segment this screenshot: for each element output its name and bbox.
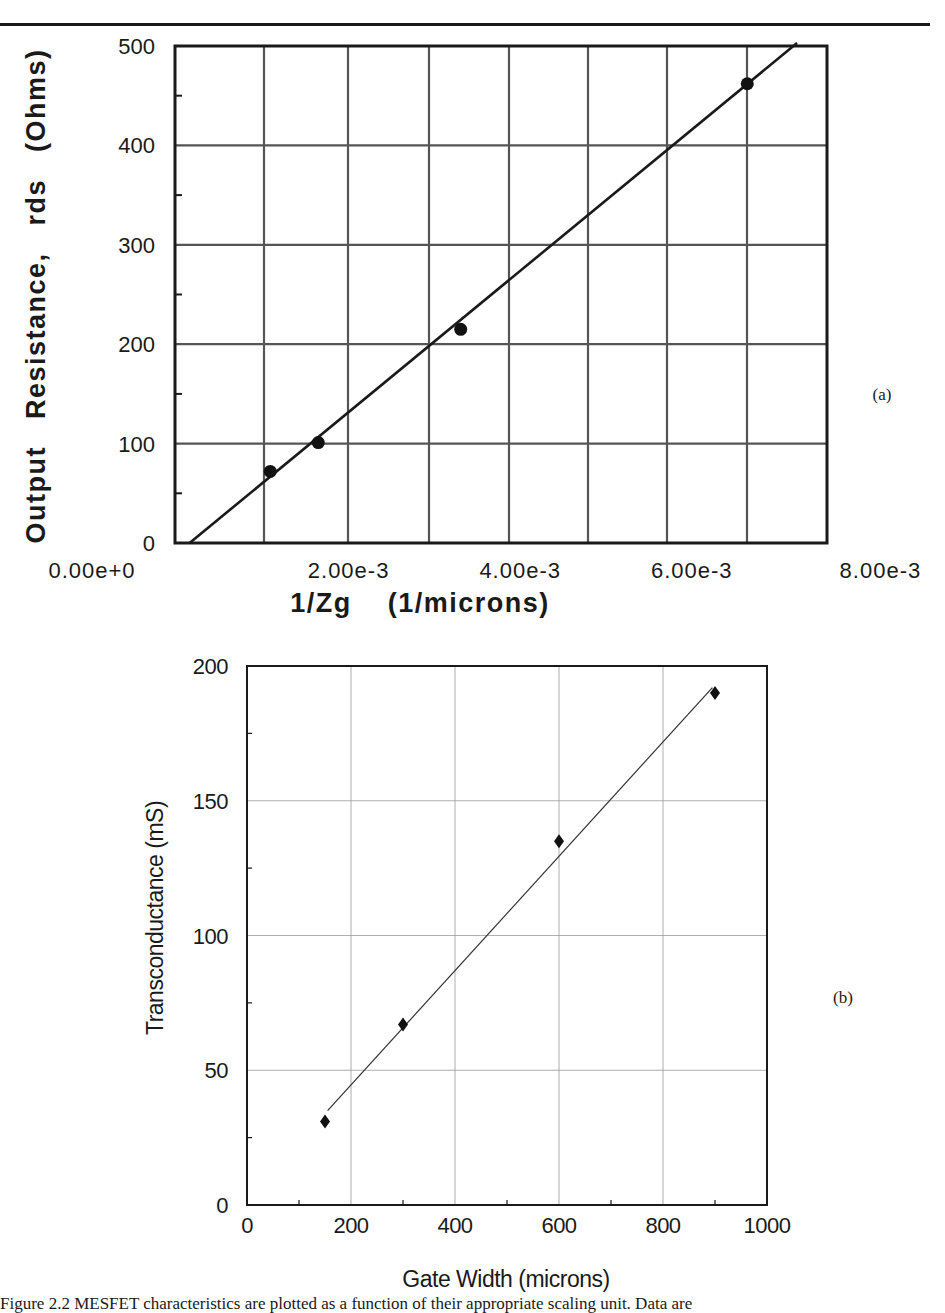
chart-a-x-tick-label: 0.00e+0 bbox=[48, 558, 135, 583]
chart-b-panel-label: (b) bbox=[833, 988, 853, 1007]
chart-a-x-tick-label: 6.00e-3 bbox=[651, 558, 733, 583]
chart-b-minor-ticks bbox=[247, 733, 715, 1205]
chart-a-y-tick-label: 400 bbox=[118, 133, 155, 158]
chart-a-y-axis-title: Output Resistance, rds (Ohms) bbox=[21, 48, 51, 543]
chart-b-y-tick-label: 200 bbox=[193, 654, 228, 679]
chart-b-x-tick-label: 0 bbox=[241, 1213, 253, 1238]
chart-b-y-axis-title: Transconductance (mS) bbox=[142, 801, 168, 1035]
chart-a-y-tick-labels: 0100200300400500 bbox=[118, 34, 155, 556]
chart-b-y-tick-label: 100 bbox=[193, 924, 228, 949]
chart-a-data-point bbox=[264, 465, 277, 478]
chart-a-data-point bbox=[312, 436, 325, 449]
chart-a-panel-label: (a) bbox=[873, 385, 892, 404]
chart-b-x-tick-label: 1000 bbox=[744, 1213, 791, 1238]
chart-a-x-tick-label: 8.00e-3 bbox=[840, 558, 922, 583]
chart-a-fit-line bbox=[190, 43, 797, 543]
chart-b-data-point bbox=[554, 834, 564, 848]
chart-b-y-tick-label: 50 bbox=[205, 1058, 229, 1083]
chart-b-x-tick-label: 400 bbox=[437, 1213, 472, 1238]
chart-b-data-point bbox=[320, 1114, 330, 1128]
chart-b-x-axis-title: Gate Width (microns) bbox=[402, 1266, 609, 1292]
chart-b-data-points bbox=[320, 686, 720, 1129]
chart-a-y-tick-label: 500 bbox=[118, 34, 155, 59]
chart-a-x-tick-label: 4.00e-3 bbox=[479, 558, 561, 583]
chart-a-x-tick-label: 2.00e-3 bbox=[308, 558, 390, 583]
chart-a-data-point bbox=[741, 77, 754, 90]
chart-b-x-tick-label: 800 bbox=[645, 1213, 680, 1238]
chart-a-fit-segment bbox=[190, 43, 797, 543]
chart-b-fit-segment bbox=[328, 688, 713, 1111]
figure-canvas: 0.00e+02.00e-34.00e-36.00e-38.00e-3 0100… bbox=[0, 0, 945, 1313]
chart-a-y-tick-label: 200 bbox=[118, 332, 155, 357]
chart-b-fit-line bbox=[328, 688, 713, 1111]
chart-b-data-point bbox=[398, 1017, 408, 1031]
chart-a-output-resistance: 0.00e+02.00e-34.00e-36.00e-38.00e-3 0100… bbox=[21, 34, 921, 618]
chart-b-y-tick-label: 0 bbox=[216, 1193, 228, 1218]
chart-b-y-tick-labels: 050100150200 bbox=[193, 654, 228, 1218]
chart-a-y-tick-label: 300 bbox=[118, 233, 155, 258]
figure-caption: Figure 2.2 MESFET characteristics are pl… bbox=[0, 1294, 945, 1313]
chart-b-x-tick-labels: 02004006008001000 bbox=[241, 1213, 791, 1238]
chart-a-y-tick-label: 100 bbox=[118, 432, 155, 457]
chart-a-data-point bbox=[454, 323, 467, 336]
chart-a-y-tick-label: 0 bbox=[143, 531, 155, 556]
chart-a-x-tick-labels: 0.00e+02.00e-34.00e-36.00e-38.00e-3 bbox=[48, 558, 921, 583]
chart-b-x-tick-label: 200 bbox=[333, 1213, 368, 1238]
chart-b-transconductance: 02004006008001000 050100150200 Gate Widt… bbox=[142, 654, 853, 1292]
chart-b-y-tick-label: 150 bbox=[193, 789, 228, 814]
chart-a-x-axis-title: 1/Zg (1/microns) bbox=[290, 588, 550, 618]
chart-b-x-tick-label: 600 bbox=[541, 1213, 576, 1238]
